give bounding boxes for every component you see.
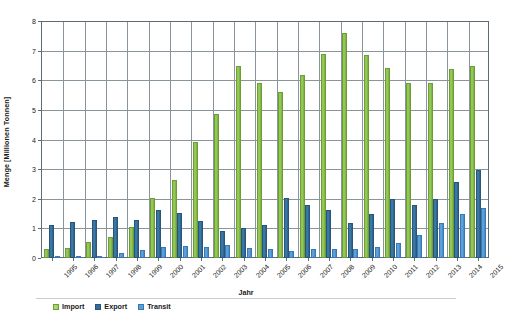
- x-tick-mark: [73, 258, 74, 261]
- legend-swatch-import-icon: [53, 304, 59, 310]
- x-tick-mark: [329, 258, 330, 261]
- x-tick-mark: [137, 258, 138, 261]
- x-tick-label-2014: 2014: [468, 263, 484, 279]
- x-tick-label-2007: 2007: [318, 263, 334, 279]
- legend-swatch-export-icon: [95, 304, 101, 310]
- x-tick-mark: [265, 258, 266, 261]
- x-tick-label-1997: 1997: [105, 263, 121, 279]
- x-tick-label-1999: 1999: [148, 263, 164, 279]
- y-tick-mark: [38, 140, 41, 141]
- y-tick-mark: [38, 80, 41, 81]
- x-tick-label-2004: 2004: [254, 263, 270, 279]
- chart-legend: ImportExportTransit: [53, 303, 171, 310]
- legend-item-export[interactable]: Export: [95, 303, 127, 310]
- y-tick-mark: [38, 258, 41, 259]
- legend-swatch-transit-icon: [138, 304, 144, 310]
- x-tick-label-2015: 2015: [489, 263, 505, 279]
- x-tick-mark: [52, 258, 53, 261]
- legend-label: Import: [62, 303, 84, 310]
- y-tick-mark: [38, 199, 41, 200]
- legend-item-import[interactable]: Import: [53, 303, 84, 310]
- x-tick-mark: [244, 258, 245, 261]
- y-tick-mark: [38, 169, 41, 170]
- x-tick-mark: [393, 258, 394, 261]
- y-tick-label: 3: [22, 166, 36, 173]
- x-tick-label-2011: 2011: [403, 263, 419, 279]
- x-tick-mark: [158, 258, 159, 261]
- x-tick-mark: [116, 258, 117, 261]
- x-tick-label-2003: 2003: [233, 263, 249, 279]
- y-tick-label: 8: [22, 18, 36, 25]
- legend-label: Export: [104, 303, 127, 310]
- x-tick-label-2001: 2001: [190, 263, 206, 279]
- x-tick-mark: [436, 258, 437, 261]
- y-tick-label: 2: [22, 195, 36, 202]
- y-tick-mark: [38, 228, 41, 229]
- x-tick-mark: [308, 258, 309, 261]
- x-tick-label-1998: 1998: [126, 263, 142, 279]
- x-tick-label-2006: 2006: [297, 263, 313, 279]
- x-tick-label-2012: 2012: [425, 263, 441, 279]
- x-tick-mark: [180, 258, 181, 261]
- legend-label: Transit: [147, 303, 171, 310]
- x-tick-mark: [286, 258, 287, 261]
- legend-item-transit[interactable]: Transit: [138, 303, 171, 310]
- x-tick-mark: [94, 258, 95, 261]
- x-tick-label-1995: 1995: [62, 263, 78, 279]
- y-tick-label: 0: [22, 255, 36, 262]
- y-tick-mark: [38, 110, 41, 111]
- x-tick-mark: [457, 258, 458, 261]
- y-tick-label: 4: [22, 136, 36, 143]
- y-tick-label: 6: [22, 77, 36, 84]
- x-tick-label-1996: 1996: [84, 263, 100, 279]
- x-tick-label-2013: 2013: [446, 263, 462, 279]
- y-tick-label: 7: [22, 47, 36, 54]
- y-axis-ticks: 876543210: [41, 21, 489, 258]
- x-tick-mark: [350, 258, 351, 261]
- x-tick-mark: [372, 258, 373, 261]
- x-tick-mark: [201, 258, 202, 261]
- x-tick-label-2000: 2000: [169, 263, 185, 279]
- x-tick-label-2005: 2005: [276, 263, 292, 279]
- x-tick-mark: [414, 258, 415, 261]
- x-tick-label-2010: 2010: [382, 263, 398, 279]
- y-tick-label: 5: [22, 106, 36, 113]
- legend-separator: [36, 298, 456, 299]
- x-tick-label-2009: 2009: [361, 263, 377, 279]
- y-tick-mark: [38, 21, 41, 22]
- y-tick-label: 1: [22, 225, 36, 232]
- y-axis-title: Menge [Millionen Tonnen]: [2, 82, 11, 202]
- x-tick-mark: [478, 258, 479, 261]
- x-tick-label-2002: 2002: [212, 263, 228, 279]
- y-tick-mark: [38, 51, 41, 52]
- x-tick-label-2008: 2008: [340, 263, 356, 279]
- x-axis-title: Jahr: [0, 288, 492, 297]
- x-tick-mark: [222, 258, 223, 261]
